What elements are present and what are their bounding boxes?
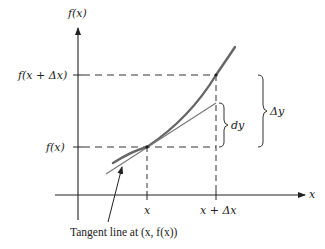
delta-y-brace [258,75,267,147]
x-axis-label: x [309,188,316,201]
label-x: x [144,204,151,217]
point-x-plus-dx [214,73,217,76]
label-f-x-plus-dx: f(x + Δx) [17,69,67,82]
tangent-line [106,103,216,174]
label-f-x: f(x) [45,141,65,154]
tangent-caption: Tangent line at (x, f(x)) [70,226,178,239]
dy-brace [219,103,228,147]
label-dy: dy [231,119,245,132]
function-curve [113,47,235,163]
point-x-fx [145,145,149,149]
differential-diagram: f(x) x f(x + Δx) f(x) x x + Δx dy Δy Tan… [0,0,325,249]
y-axis-label: f(x) [67,7,87,20]
label-delta-y: Δy [269,105,285,118]
label-x-plus-dx: x + Δx [200,204,237,217]
